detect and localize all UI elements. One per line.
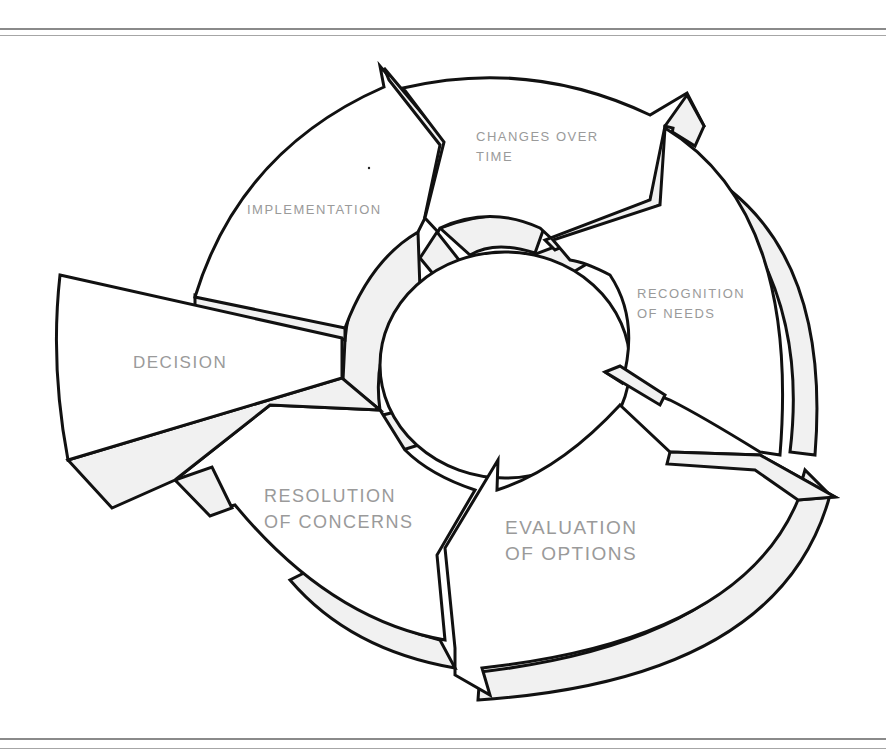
label-implementation: IMPLEMENTATION bbox=[247, 202, 382, 217]
label-changes-over-time-1: CHANGES OVER bbox=[476, 129, 599, 144]
label-resolution-1: RESOLUTION bbox=[264, 486, 396, 506]
speck bbox=[368, 167, 370, 169]
label-decision: DECISION bbox=[133, 353, 227, 372]
label-recognition-2: OF NEEDS bbox=[637, 306, 715, 321]
cycle-diagram: CHANGES OVER TIME RECOGNITION OF NEEDS E… bbox=[0, 0, 886, 751]
label-evaluation-1: EVALUATION bbox=[505, 517, 638, 538]
bottom-rule-inner bbox=[0, 748, 886, 749]
label-recognition-1: RECOGNITION bbox=[637, 286, 745, 301]
label-evaluation-2: OF OPTIONS bbox=[505, 543, 637, 564]
label-changes-over-time-2: TIME bbox=[476, 149, 513, 164]
label-resolution-2: OF CONCERNS bbox=[264, 512, 414, 532]
bottom-rule bbox=[0, 738, 886, 740]
